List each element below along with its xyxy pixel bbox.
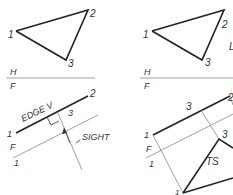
- label-p1: 1: [143, 29, 149, 40]
- label-p1: 1: [7, 129, 12, 139]
- projection-line-3: [201, 110, 219, 139]
- label-p1-tv: 1: [175, 188, 179, 195]
- descriptive-geometry-drawing: 1 2 3 H F 1 2 3 L H F EDGE V 2 3 1 F 1 S…: [0, 0, 233, 195]
- projection-line-1: [153, 135, 183, 193]
- fold-label-1: 1: [14, 158, 19, 168]
- label-p1: 1: [144, 130, 149, 140]
- fold-label-h: H: [144, 67, 151, 77]
- right-bottom-true-size-view: 3 2 3 1 F 1 TS 1: [144, 92, 233, 195]
- left-top-view: 1 2 3 H F: [6, 8, 96, 91]
- fold-label-f: F: [10, 142, 16, 152]
- label-sight: SIGHT: [82, 132, 111, 142]
- label-p3: 3: [68, 108, 73, 118]
- fold-line-f1: [146, 114, 233, 158]
- label-p2: 2: [221, 19, 228, 30]
- fold-label-f: F: [10, 81, 16, 91]
- triangle-123: [152, 10, 224, 60]
- fold-label-f: F: [146, 144, 152, 154]
- label-p3: 3: [68, 58, 74, 69]
- fold-label-f: F: [144, 81, 150, 91]
- label-p3: 3: [205, 57, 211, 68]
- label-p2: 2: [89, 8, 96, 19]
- label-ts: TS: [206, 156, 219, 167]
- left-bottom-edge-view: EDGE V 2 3 1 F 1 SIGHT: [7, 88, 111, 170]
- fold-label-1: 1: [149, 159, 154, 169]
- true-size-edge: [183, 178, 233, 193]
- label-p3-tv: 3: [222, 129, 228, 140]
- label-p1: 1: [8, 29, 14, 40]
- triangle-123: [16, 10, 88, 60]
- label-p2: 2: [227, 92, 233, 103]
- fold-label-h: H: [10, 67, 17, 77]
- sight-leader: [76, 140, 80, 143]
- label-p2: 2: [89, 88, 96, 99]
- label-edge-v: EDGE V: [19, 99, 55, 123]
- right-top-view: 1 2 3 L H F: [140, 10, 233, 91]
- label-p3-top: 3: [186, 101, 192, 112]
- right-angle-mark: [47, 117, 59, 125]
- label-partial: L: [229, 41, 233, 52]
